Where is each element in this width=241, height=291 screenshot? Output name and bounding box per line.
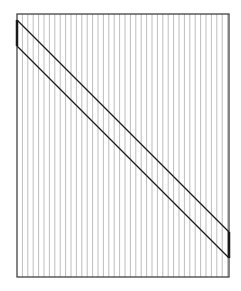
diagonal-band-diagram: [0, 0, 241, 291]
background: [0, 0, 241, 291]
